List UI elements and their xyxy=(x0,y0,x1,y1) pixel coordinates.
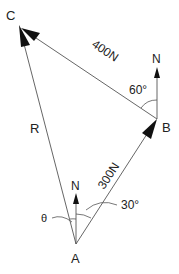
label-north-a: N xyxy=(71,179,80,193)
vector-300n-arrowhead xyxy=(142,119,157,139)
label-force-300n: 300N xyxy=(95,160,122,192)
north-arrow-icon-b xyxy=(154,67,160,78)
vector-r-line xyxy=(24,44,76,244)
vector-r-arrowhead xyxy=(19,25,30,47)
label-force-400n: 400N xyxy=(89,37,121,65)
label-a: A xyxy=(71,251,80,266)
leader-30 xyxy=(86,202,117,210)
vector-300n-line xyxy=(76,134,147,244)
label-c: C xyxy=(6,8,15,23)
label-angle-a: 30° xyxy=(121,198,139,212)
label-b: B xyxy=(162,120,171,135)
angle-arc-a xyxy=(76,214,91,218)
vector-diagram: C B A R N N 60° 30° θ 400N 300N xyxy=(0,0,179,274)
label-theta: θ xyxy=(41,212,47,224)
label-r: R xyxy=(30,121,39,136)
label-angle-b: 60° xyxy=(129,83,147,97)
label-north-b: N xyxy=(152,52,161,66)
north-arrow-icon-a xyxy=(73,193,79,204)
angle-arc-b xyxy=(141,100,157,108)
